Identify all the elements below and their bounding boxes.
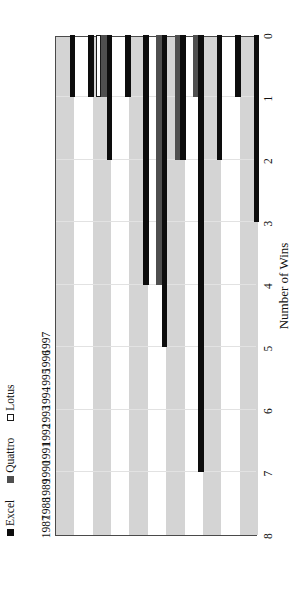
bar-lotus-1989 xyxy=(96,35,102,98)
value-tick-8: 8 xyxy=(262,533,274,539)
chart-stage: ExcelQuattroLotus 1987198819891990199119… xyxy=(0,0,295,605)
category-label-1997: 1997 xyxy=(40,332,52,355)
plot-area xyxy=(55,36,257,536)
legend-label: Lotus xyxy=(4,384,16,410)
legend-label: Quattro xyxy=(4,438,16,473)
value-tick-2: 2 xyxy=(262,158,274,164)
quattro-swatch-icon xyxy=(7,476,14,483)
value-tick-4: 4 xyxy=(262,283,274,289)
bar-group xyxy=(74,37,92,535)
bar-group xyxy=(185,37,203,535)
bar-quattro-1993 xyxy=(175,35,181,160)
bar-group xyxy=(93,37,111,535)
chart-legend: ExcelQuattroLotus xyxy=(4,384,16,536)
bar-group xyxy=(129,37,147,535)
legend-label: Excel xyxy=(4,500,16,526)
lotus-swatch-icon xyxy=(7,414,14,421)
value-tick-7: 7 xyxy=(262,471,274,477)
value-axis-title: Number of Wins xyxy=(276,36,292,536)
value-tick-6: 6 xyxy=(262,408,274,414)
bar-group xyxy=(56,37,74,535)
bar-group xyxy=(221,37,239,535)
category-axis: 1987198819891990199119921993199419951996… xyxy=(26,36,54,536)
bar-group xyxy=(203,37,221,535)
value-tick-5: 5 xyxy=(262,346,274,352)
bar-group xyxy=(148,37,166,535)
bar-quattro-1994 xyxy=(193,35,199,98)
excel-swatch-icon xyxy=(7,529,14,536)
value-tick-1: 1 xyxy=(262,96,274,102)
bar-quattro-1989 xyxy=(101,35,107,98)
bar-group xyxy=(166,37,184,535)
legend-item-lotus: Lotus xyxy=(4,384,16,420)
legend-item-quattro: Quattro xyxy=(4,438,16,483)
bar-group xyxy=(111,37,129,535)
value-tick-0: 0 xyxy=(262,33,274,39)
bar-group xyxy=(240,37,258,535)
value-tick-3: 3 xyxy=(262,221,274,227)
bar-quattro-1992 xyxy=(156,35,162,285)
legend-item-excel: Excel xyxy=(4,500,16,536)
